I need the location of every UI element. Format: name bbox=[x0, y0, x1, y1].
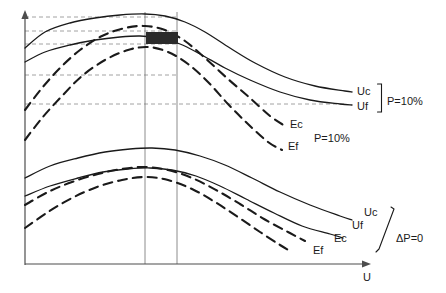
curve-label-lower-ef: Ef bbox=[313, 245, 323, 256]
schematic-plot-canvas bbox=[0, 0, 446, 293]
curve-label-lower-uf: Uf bbox=[352, 220, 363, 231]
curve-P10-Ef bbox=[25, 47, 282, 150]
upper-group-bracket bbox=[378, 84, 382, 112]
curve-dP0-Uf bbox=[25, 168, 343, 238]
horizontal-reference-lines-group bbox=[25, 17, 345, 104]
curve-P10-Uc bbox=[25, 14, 352, 92]
condition-brackets-group bbox=[376, 84, 394, 252]
curve-dP0-Ef bbox=[25, 177, 292, 252]
curve-label-upper-ef: Ef bbox=[288, 141, 298, 152]
lower-group-bracket bbox=[376, 207, 394, 252]
redaction-block bbox=[146, 32, 178, 44]
figure-container: Uc Uf P=10% Ec Ef P=10% Uc Uf Ec Ef ΔP=0… bbox=[0, 0, 446, 293]
curve-label-upper-ec: Ec bbox=[290, 119, 303, 130]
curve-label-lower-ec: Ec bbox=[334, 233, 347, 244]
condition-label-upper-bracket: P=10% bbox=[387, 96, 423, 107]
curve-label-upper-uc: Uc bbox=[357, 86, 370, 97]
curve-dP0-Ec bbox=[25, 167, 305, 241]
x-axis-arrow-icon bbox=[362, 260, 371, 267]
condition-label-lower-bracket: ΔP=0 bbox=[396, 233, 423, 244]
condition-label-upper-ecef: P=10% bbox=[314, 133, 350, 144]
curve-dP0-Uc bbox=[25, 148, 352, 220]
x-axis-label: U bbox=[363, 272, 371, 283]
curve-label-lower-uc: Uc bbox=[364, 207, 377, 218]
curves-group bbox=[25, 14, 352, 252]
curve-P10-Uf bbox=[25, 36, 352, 105]
curve-label-upper-uf: Uf bbox=[357, 101, 368, 112]
y-axis-arrow-icon bbox=[21, 10, 28, 19]
